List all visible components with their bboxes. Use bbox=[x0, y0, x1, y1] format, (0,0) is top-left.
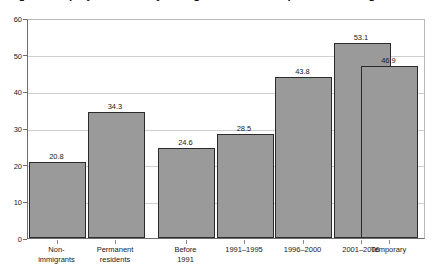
y-axis-tick-mark bbox=[23, 165, 27, 166]
x-axis-category-label: Non- immigrants bbox=[38, 245, 75, 264]
x-axis-category-label: 1991–1995 bbox=[225, 245, 263, 255]
x-axis-category-label: Permanent residents bbox=[97, 245, 134, 264]
bar-value-label: 43.8 bbox=[295, 67, 310, 76]
y-axis-tick-mark bbox=[23, 239, 27, 240]
y-axis-tick-mark bbox=[23, 92, 27, 93]
y-axis-tick-label: 40 bbox=[0, 88, 22, 97]
x-axis-category-label: 1996–2000 bbox=[284, 245, 322, 255]
y-axis-tick-mark bbox=[23, 202, 27, 203]
y-axis-tick-mark bbox=[23, 55, 27, 56]
y-axis-tick-label: 10 bbox=[0, 198, 22, 207]
y-axis-tick-label: 0 bbox=[0, 235, 22, 244]
y-axis-tick-label: 50 bbox=[0, 51, 22, 60]
bar-value-label: 28.5 bbox=[237, 124, 252, 133]
bar bbox=[158, 148, 215, 238]
y-axis-tick-label: 60 bbox=[0, 15, 22, 24]
y-axis-tick-label: 30 bbox=[0, 125, 22, 134]
bar bbox=[217, 134, 274, 239]
bar bbox=[275, 77, 332, 238]
x-axis-tick-mark bbox=[186, 240, 187, 244]
plot-area bbox=[27, 19, 425, 239]
bar-value-label: 34.3 bbox=[108, 102, 123, 111]
x-axis-tick-mark bbox=[115, 240, 116, 244]
bar-value-label: 24.6 bbox=[178, 138, 193, 147]
bar bbox=[361, 66, 418, 238]
x-axis-tick-mark bbox=[389, 240, 390, 244]
x-axis-tick-mark bbox=[57, 240, 58, 244]
x-axis-category-label: Before 1991 bbox=[174, 245, 196, 264]
x-axis-tick-mark bbox=[303, 240, 304, 244]
y-axis-tick-mark bbox=[23, 129, 27, 130]
bar-value-label: 53.1 bbox=[354, 33, 369, 42]
bar-chart: 010203040506020.8Non- immigrants34.3Perm… bbox=[0, 0, 433, 272]
bar bbox=[29, 162, 86, 238]
x-axis-tick-mark bbox=[244, 240, 245, 244]
bar-value-label: 46.9 bbox=[381, 56, 396, 65]
y-axis-tick-mark bbox=[23, 19, 27, 20]
x-axis-tick-mark bbox=[361, 240, 362, 244]
y-axis-tick-label: 20 bbox=[0, 161, 22, 170]
bar-value-label: 20.8 bbox=[49, 152, 64, 161]
bar bbox=[88, 112, 145, 238]
x-axis-category-label: Temporary bbox=[371, 245, 406, 255]
